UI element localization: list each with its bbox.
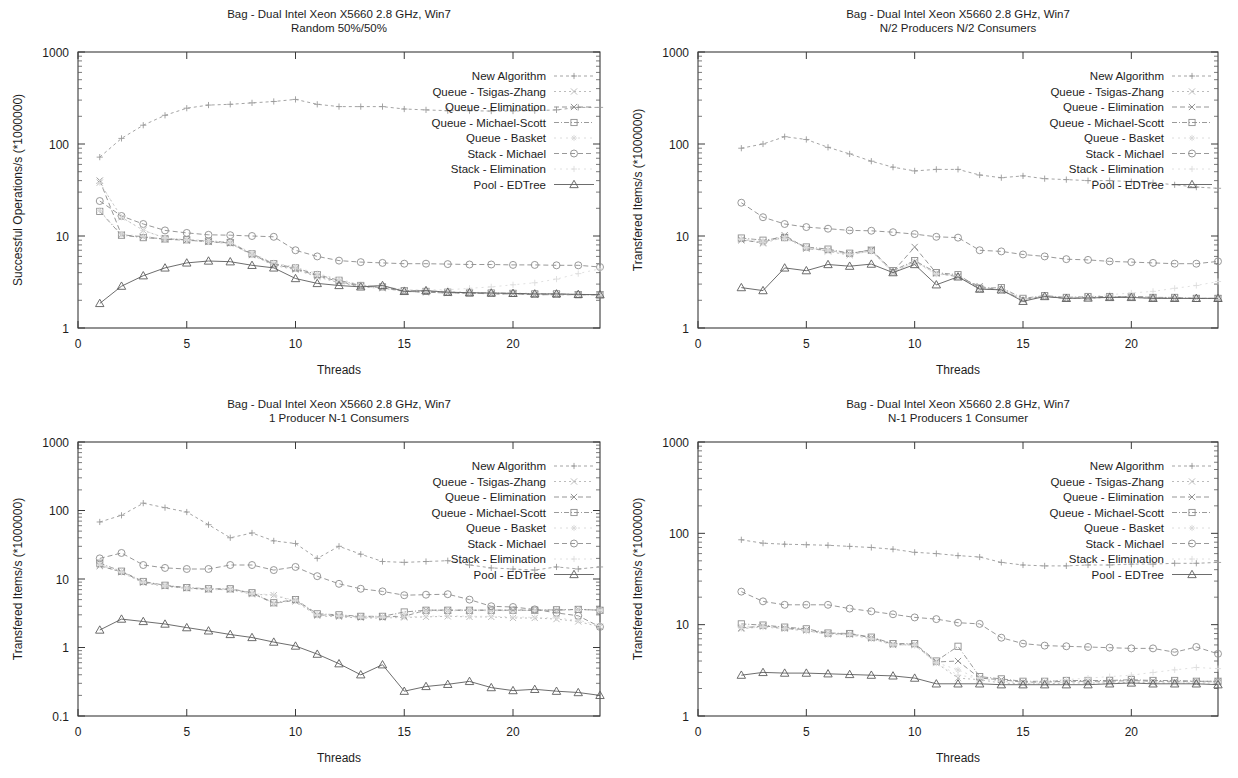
legend-label-stack-elimination: Stack - Elimination (451, 163, 546, 175)
y-axis-label: Transfered Items/s (*1000000) (631, 109, 645, 271)
data-point-triangle (824, 260, 832, 267)
chart-title: Bag - Dual Intel Xeon X5660 2.8 GHz, Win… (227, 8, 451, 20)
legend: New AlgorithmQueue - Tsigas-ZhangQueue -… (432, 70, 594, 191)
y-tick-label: 1000 (662, 46, 689, 60)
data-point-cross (912, 244, 918, 250)
chart-subtitle: Random 50%/50% (291, 22, 387, 34)
chart-bottom-left: Bag - Dual Intel Xeon X5660 2.8 GHz, Win… (0, 390, 620, 778)
data-point-plus (977, 554, 983, 560)
chart-bottom-right: Bag - Dual Intel Xeon X5660 2.8 GHz, Win… (620, 390, 1238, 778)
x-tick-label: 10 (908, 725, 922, 739)
data-point-plus (998, 175, 1004, 181)
data-point-triangle (889, 672, 897, 679)
data-point-plus (1189, 556, 1195, 562)
data-point-star (118, 231, 124, 237)
legend-label-pool-edtree: Pool - EDTree (1092, 569, 1164, 581)
data-point-plus (955, 553, 961, 559)
y-tick-label: 100 (49, 504, 69, 518)
data-point-triangle (335, 660, 343, 667)
data-point-triangle (780, 264, 788, 271)
series-stack-michael (738, 199, 1222, 267)
legend-label-queue-tsigas-zhang: Queue - Tsigas-Zhang (432, 476, 546, 488)
data-point-plus (575, 566, 581, 572)
data-point-plus (571, 463, 577, 469)
data-point-plus (1085, 178, 1091, 184)
legend-label-queue-elimination: Queue - Elimination (1063, 101, 1164, 113)
series-line (100, 619, 600, 695)
legend-label-queue-michael-scott: Queue - Michael-Scott (1050, 507, 1165, 519)
legend-label-queue-elimination: Queue - Elimination (445, 101, 546, 113)
data-point-plus (553, 276, 559, 282)
data-point-plus (358, 103, 364, 109)
series-stack-michael (96, 198, 603, 271)
series-line (741, 626, 1218, 683)
x-tick-label: 15 (398, 337, 412, 351)
x-tick-label: 15 (1016, 337, 1030, 351)
x-tick-label: 0 (75, 725, 82, 739)
y-tick-label: 10 (676, 230, 690, 244)
data-point-plus (97, 519, 103, 525)
data-point-plus (933, 166, 939, 172)
legend-label-queue-basket: Queue - Basket (1084, 522, 1165, 534)
data-point-plus (1215, 559, 1221, 565)
legend-label-queue-michael-scott: Queue - Michael-Scott (432, 507, 547, 519)
legend-label-stack-michael: Stack - Michael (1085, 148, 1164, 160)
data-point-plus (401, 106, 407, 112)
data-point-plus (1215, 666, 1221, 672)
data-point-plus (336, 543, 342, 549)
data-point-plus (227, 535, 233, 541)
x-tick-label: 20 (506, 725, 520, 739)
chart-title: Bag - Dual Intel Xeon X5660 2.8 GHz, Win… (846, 398, 1070, 410)
data-point-plus (249, 530, 255, 536)
legend-label-stack-michael: Stack - Michael (467, 538, 546, 550)
chart-panel-top-left: Bag - Dual Intel Xeon X5660 2.8 GHz, Win… (0, 0, 620, 390)
y-axis-label: Transfered Items/s (*1000000) (11, 498, 25, 660)
data-point-plus (955, 672, 961, 678)
data-point-plus (401, 559, 407, 565)
data-point-square (955, 643, 961, 649)
data-point-plus (1042, 563, 1048, 569)
legend: New AlgorithmQueue - Tsigas-ZhangQueue -… (1050, 70, 1212, 191)
y-tick-label: 100 (669, 527, 689, 541)
data-point-plus (423, 558, 429, 564)
data-point-plus (825, 542, 831, 548)
data-point-plus (553, 564, 559, 570)
legend-label-stack-elimination: Stack - Elimination (451, 553, 546, 565)
data-point-cross (1189, 88, 1195, 94)
x-tick-label: 10 (908, 337, 922, 351)
data-point-circle (96, 555, 103, 562)
y-axis-label: Transfered Items/s (*1000000) (631, 498, 645, 660)
data-point-plus (140, 500, 146, 506)
data-point-plus (912, 168, 918, 174)
y-tick-label: 1000 (662, 436, 689, 450)
data-point-plus (868, 544, 874, 550)
series-queue-elimination (97, 178, 603, 298)
legend-label-new-algorithm: New Algorithm (1090, 70, 1164, 82)
legend-label-queue-michael-scott: Queue - Michael-Scott (432, 117, 547, 129)
y-axis-label: Successful Operations/s (*1000000) (11, 94, 25, 286)
data-point-triangle (570, 180, 578, 187)
data-point-cross (571, 88, 577, 94)
x-tick-label: 20 (1125, 725, 1139, 739)
data-point-triangle (867, 260, 875, 267)
data-point-plus (977, 172, 983, 178)
data-point-plus (868, 158, 874, 164)
data-point-plus (597, 564, 603, 570)
data-point-plus (314, 555, 320, 561)
data-point-plus (205, 522, 211, 528)
data-point-plus (760, 540, 766, 546)
data-point-plus (1020, 173, 1026, 179)
series-line (741, 624, 1218, 681)
data-point-plus (1193, 560, 1199, 566)
chart-title: Bag - Dual Intel Xeon X5660 2.8 GHz, Win… (846, 8, 1070, 20)
legend-label-new-algorithm: New Algorithm (472, 70, 546, 82)
data-point-triangle (96, 626, 104, 633)
data-point-plus (271, 538, 277, 544)
data-point-plus (1020, 562, 1026, 568)
y-tick-label: 1000 (42, 46, 69, 60)
data-point-triangle (531, 685, 539, 692)
data-point-plus (249, 100, 255, 106)
data-point-plus (803, 136, 809, 142)
series-queue-tsigas-zhang (738, 234, 1221, 304)
chart-subtitle: N-1 Producers 1 Consumer (888, 412, 1028, 424)
